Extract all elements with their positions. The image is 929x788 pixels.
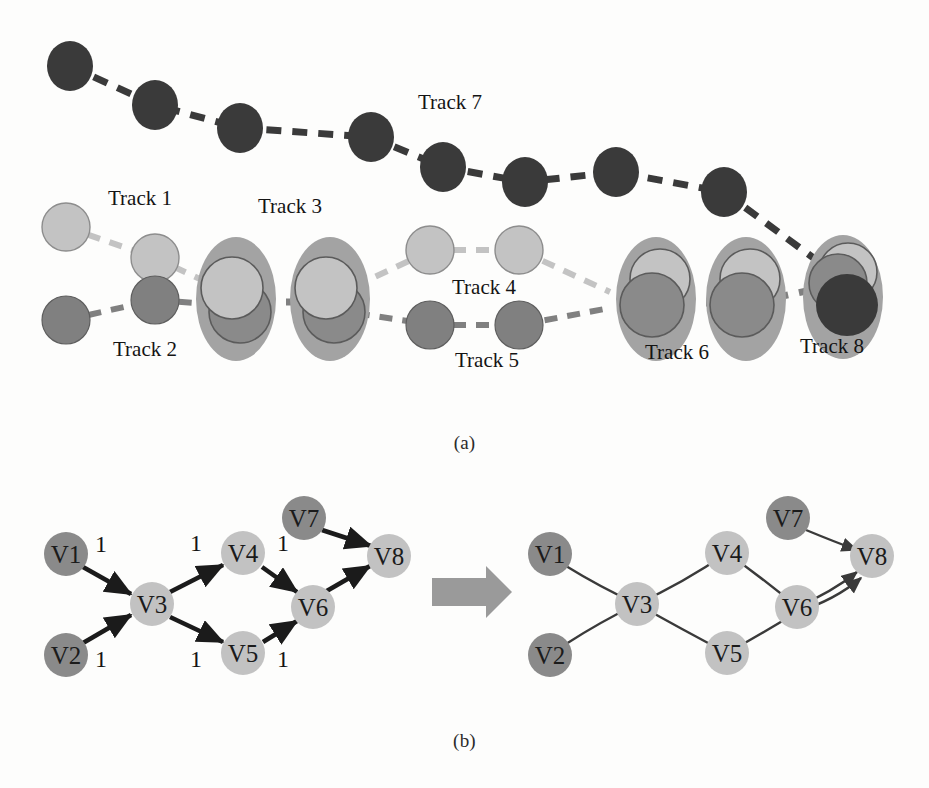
node-v5-merged-label: V5	[712, 640, 743, 667]
node-v2[interactable]: V2	[44, 633, 88, 677]
node-v5-merged[interactable]: V5	[705, 631, 749, 675]
edge-v5-v6	[263, 621, 297, 642]
node-v1-merged[interactable]: V1	[528, 532, 572, 576]
edge-v2-v3	[83, 615, 131, 643]
edge-weight-v4-v6: 1	[277, 530, 289, 556]
node-v3[interactable]: V3	[130, 582, 174, 626]
node-v3-label: V3	[137, 591, 168, 618]
edge-v6-v8	[325, 566, 370, 592]
node-v6-merged-label: V6	[782, 594, 813, 621]
node-v1-merged-label: V1	[535, 541, 566, 568]
right-graph-nodes: V1 V2 V3 V4 V5	[528, 496, 894, 677]
node-v8-merged-label: V8	[857, 543, 888, 570]
node-v4[interactable]: V4	[221, 531, 265, 575]
node-v4-merged-label: V4	[712, 540, 743, 567]
panel-b-graph-diagram: V1 V2 V3 V4 V5	[0, 0, 929, 788]
edge-weight-v1-v3: 1	[95, 531, 107, 557]
node-v1-label: V1	[51, 541, 82, 568]
left-graph: V1 V2 V3 V4 V5	[44, 496, 411, 677]
node-v4-merged[interactable]: V4	[705, 531, 749, 575]
edge-v4-v6	[262, 567, 297, 592]
node-v6[interactable]: V6	[291, 585, 335, 629]
edge-weight-v3-v4: 1	[190, 530, 202, 556]
figure-root: Track 1 Track 2 Track 3 Track 4 Track 5 …	[0, 0, 929, 788]
edge-v7-v8	[322, 530, 371, 546]
node-v8[interactable]: V8	[367, 534, 411, 578]
node-v5-label: V5	[228, 640, 259, 667]
node-v8-label: V8	[374, 543, 405, 570]
edge-weight-v3-v5: 1	[190, 646, 202, 672]
node-v7-merged[interactable]: V7	[766, 496, 810, 540]
node-v5[interactable]: V5	[221, 631, 265, 675]
edge-v1-v3	[83, 567, 131, 594]
merge-arrow-shape	[432, 566, 512, 618]
panel-b-caption: (b)	[0, 730, 929, 752]
edge-v3-v5	[170, 617, 223, 642]
node-v8-merged[interactable]: V8	[850, 534, 894, 578]
right-graph: V1 V2 V3 V4 V5	[528, 496, 894, 677]
node-v3-merged[interactable]: V3	[615, 582, 659, 626]
trajectory-v7-path	[806, 530, 857, 550]
node-v2-merged[interactable]: V2	[528, 633, 572, 677]
merge-arrow-icon	[432, 566, 512, 618]
node-v7-label: V7	[289, 505, 320, 532]
node-v6-merged[interactable]: V6	[775, 585, 819, 629]
edge-weight-v2-v3: 1	[95, 646, 107, 672]
node-v2-merged-label: V2	[535, 642, 566, 669]
node-v7-merged-label: V7	[773, 505, 804, 532]
node-v4-label: V4	[228, 540, 259, 567]
node-v3-merged-label: V3	[622, 591, 653, 618]
node-v1[interactable]: V1	[44, 532, 88, 576]
node-v6-label: V6	[298, 594, 329, 621]
node-v2-label: V2	[51, 642, 82, 669]
edge-v3-v4	[170, 565, 223, 592]
edge-weight-v5-v6: 1	[277, 646, 289, 672]
